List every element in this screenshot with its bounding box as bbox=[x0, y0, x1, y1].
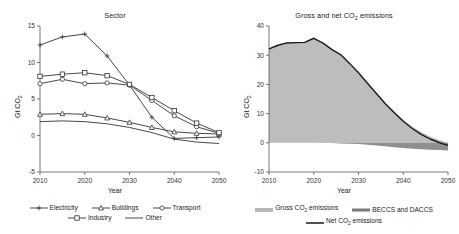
legend-item-buildings[interactable]: Buildings bbox=[92, 203, 139, 213]
sector-y-axis-label: Gt CO2 bbox=[14, 95, 23, 118]
sector-x-tick-label: 2010 bbox=[33, 177, 48, 184]
sector-square-marker bbox=[105, 73, 109, 77]
sector-y-tick-label: 5 bbox=[31, 95, 35, 102]
sector-square-marker bbox=[217, 130, 221, 134]
sector-y-tick-label: 10 bbox=[28, 59, 36, 66]
gross-net-x-axis-label: Year bbox=[229, 187, 459, 194]
circle-marker bbox=[159, 206, 163, 210]
gross-net-x-tick-label: 2030 bbox=[351, 177, 366, 184]
gross-net-x-tick-label: 2020 bbox=[306, 177, 321, 184]
sector-x-axis-label: Year bbox=[0, 187, 230, 194]
sector-circle-marker bbox=[38, 82, 42, 86]
legend-label: Gross CO2 emissions bbox=[275, 203, 338, 216]
legend-label: Other bbox=[145, 213, 162, 223]
gross-net-y-axis-label: Gt CO2 bbox=[243, 95, 252, 118]
sector-square-marker bbox=[38, 74, 42, 78]
sector-y-tick-label: -5 bbox=[29, 168, 35, 175]
legend-item-transport[interactable]: Transport bbox=[153, 203, 201, 213]
gross-net-x-tick-label: 2010 bbox=[262, 177, 277, 184]
legend-item-beccs-and-daccs[interactable]: BECCS and DACCS bbox=[352, 205, 432, 215]
gross-net-chart-panel: Gross and net CO2 emissions -10010203040… bbox=[229, 0, 459, 234]
legend-row: Net CO2 emissions bbox=[229, 216, 459, 229]
sector-y-tick-label: 15 bbox=[28, 22, 36, 29]
sector-circle-marker bbox=[105, 81, 109, 85]
sector-square-marker bbox=[127, 82, 131, 86]
sector-chart-plot: -505101520102020203020402050 bbox=[0, 0, 230, 200]
square-marker bbox=[75, 216, 79, 220]
sector-square-marker bbox=[194, 121, 198, 125]
gross-net-y-tick-label: 40 bbox=[257, 22, 265, 29]
sector-x-tick-label: 2040 bbox=[167, 177, 182, 184]
sector-square-marker bbox=[60, 72, 64, 76]
sector-chart-panel: Sector -505101520102020203020402050 Gt C… bbox=[0, 0, 230, 234]
dark-band-swatch bbox=[352, 208, 370, 211]
gross-net-y-tick-label: 0 bbox=[260, 139, 264, 146]
legend-item-gross-co[interactable]: Gross CO2 emissions bbox=[255, 203, 338, 216]
gross-net-y-tick-label: 10 bbox=[257, 110, 265, 117]
sector-x-tick-label: 2050 bbox=[212, 177, 227, 184]
sector-circle-marker bbox=[83, 82, 87, 86]
gross-net-y-tick-label: -10 bbox=[254, 168, 264, 175]
area-fill-swatch bbox=[255, 208, 273, 212]
legend-item-electricity[interactable]: Electricity bbox=[30, 203, 78, 213]
gross-emissions-area bbox=[269, 38, 448, 143]
gross-net-y-tick-label: 30 bbox=[257, 52, 265, 59]
sector-y-tick-label: 0 bbox=[31, 132, 35, 139]
legend-row: IndustryOther bbox=[0, 213, 230, 223]
legend-item-other[interactable]: Other bbox=[125, 213, 162, 223]
sector-circle-marker bbox=[172, 114, 176, 118]
gross-net-x-tick-label: 2050 bbox=[441, 177, 456, 184]
legend-row: ElectricityBuildingsTransport bbox=[0, 203, 230, 213]
legend-label: Transport bbox=[173, 203, 201, 213]
legend-label: Electricity bbox=[50, 203, 78, 213]
legend-label: BECCS and DACCS bbox=[372, 205, 432, 215]
legend-row: Gross CO2 emissionsBECCS and DACCS bbox=[229, 203, 459, 216]
legend-item-net-co[interactable]: Net CO2 emissions bbox=[306, 216, 382, 229]
figure-container: Sector -505101520102020203020402050 Gt C… bbox=[0, 0, 459, 234]
gross-net-y-tick-label: 20 bbox=[257, 81, 265, 88]
sector-legend: ElectricityBuildingsTransportIndustryOth… bbox=[0, 203, 230, 223]
legend-label: Net CO2 emissions bbox=[326, 216, 382, 229]
sector-square-marker bbox=[83, 71, 87, 75]
gross-net-chart-plot: -1001020304020102020203020402050 bbox=[229, 0, 459, 200]
sector-x-tick-label: 2020 bbox=[77, 177, 92, 184]
sector-x-tick-label: 2030 bbox=[122, 177, 137, 184]
beccs-daccs-area bbox=[269, 143, 448, 151]
legend-item-industry[interactable]: Industry bbox=[68, 213, 111, 223]
legend-label: Buildings bbox=[112, 203, 139, 213]
gross-net-legend: Gross CO2 emissionsBECCS and DACCSNet CO… bbox=[229, 203, 459, 230]
sector-square-marker bbox=[150, 95, 154, 99]
sector-square-marker bbox=[172, 108, 176, 112]
gross-net-x-tick-label: 2040 bbox=[396, 177, 411, 184]
legend-label: Industry bbox=[88, 213, 111, 223]
sector-circle-marker bbox=[60, 77, 64, 81]
